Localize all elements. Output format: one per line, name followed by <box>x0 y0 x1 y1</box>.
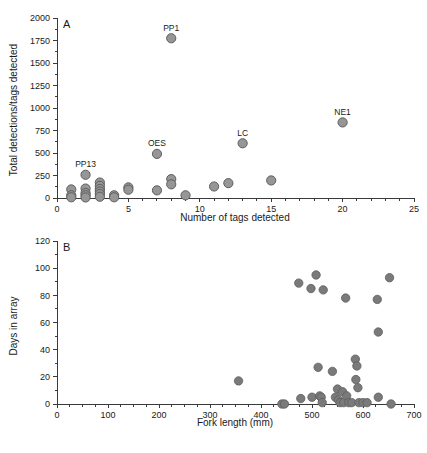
y-tick-label: 1750 <box>30 36 50 46</box>
data-point <box>338 118 347 127</box>
data-point <box>238 139 247 148</box>
data-point <box>124 185 133 194</box>
point-annotation: PP1 <box>163 23 179 33</box>
panel-b-x-axis-title: Fork length (mm) <box>197 417 273 428</box>
data-point <box>353 362 361 370</box>
y-tick-label: 250 <box>35 171 50 181</box>
data-point <box>385 273 393 281</box>
y-tick-label: 2000 <box>30 13 50 23</box>
x-tick-label: 20 <box>338 204 348 214</box>
data-point <box>167 180 176 189</box>
data-point <box>181 191 190 200</box>
x-tick-label: 600 <box>355 410 370 420</box>
y-tick-label: 20 <box>40 372 50 382</box>
y-tick-label: 1000 <box>30 103 50 113</box>
y-tick-label: 0 <box>45 399 50 409</box>
panel-a-x-axis-title: Number of tags detected <box>180 212 290 223</box>
panel-a-data-points <box>67 34 348 202</box>
data-point <box>267 176 276 185</box>
data-point <box>373 295 381 303</box>
data-point <box>374 328 382 336</box>
panel-b-scatter: 0204060801001200100200300400500600700 B … <box>0 226 427 453</box>
point-annotation: PP13 <box>75 159 96 169</box>
x-tick-label: 200 <box>151 410 166 420</box>
data-point <box>224 179 233 188</box>
data-point <box>374 393 382 401</box>
panel-b-axes: 0204060801001200100200300400500600700 <box>35 236 422 420</box>
y-tick-label: 750 <box>35 126 50 136</box>
y-tick-label: 500 <box>35 148 50 158</box>
data-point <box>341 294 349 302</box>
y-tick-label: 80 <box>40 291 50 301</box>
data-point <box>319 286 327 294</box>
y-tick-label: 40 <box>40 345 50 355</box>
panel-a-svg: 0250500750100012501500175020000510152025… <box>0 0 427 226</box>
data-point <box>280 400 288 408</box>
panel-b-data-points <box>234 271 395 408</box>
data-point <box>81 193 90 202</box>
x-tick-label: 0 <box>54 410 59 420</box>
x-tick-label: 700 <box>406 410 421 420</box>
panel-a-point-labels: PP1PP13OESLCNE1 <box>75 23 351 170</box>
data-point <box>234 377 242 385</box>
data-point <box>387 400 395 408</box>
x-tick-label: 0 <box>54 204 59 214</box>
data-point <box>363 398 371 406</box>
data-point <box>81 170 90 179</box>
data-point <box>95 192 104 201</box>
data-point <box>297 394 305 402</box>
data-point <box>328 367 336 375</box>
data-point <box>209 182 218 191</box>
data-point <box>307 284 315 292</box>
panel-a-scatter: 0250500750100012501500175020000510152025… <box>0 0 427 226</box>
x-tick-label: 500 <box>304 410 319 420</box>
panel-b-svg: 0204060801001200100200300400500600700 B … <box>0 226 427 453</box>
data-point <box>152 186 161 195</box>
data-point <box>354 384 362 392</box>
x-tick-label: 5 <box>126 204 131 214</box>
y-tick-label: 0 <box>45 193 50 203</box>
x-tick-label: 100 <box>100 410 115 420</box>
data-point <box>314 363 322 371</box>
data-point <box>295 279 303 287</box>
point-annotation: NE1 <box>334 107 351 117</box>
y-tick-label: 120 <box>35 236 50 246</box>
data-point <box>67 193 76 202</box>
panel-b-letter: B <box>63 241 70 253</box>
data-point <box>318 398 326 406</box>
y-tick-label: 1250 <box>30 81 50 91</box>
y-tick-label: 1500 <box>30 58 50 68</box>
x-tick-label: 25 <box>409 204 419 214</box>
panel-b-y-axis-title: Days in array <box>8 297 19 356</box>
point-annotation: LC <box>237 128 248 138</box>
data-point <box>312 271 320 279</box>
y-tick-label: 60 <box>40 318 50 328</box>
panel-a-letter: A <box>63 18 71 30</box>
data-point <box>152 149 161 158</box>
data-point <box>167 34 176 43</box>
panel-a-y-axis-title: Total detections/tags detected <box>8 44 19 176</box>
y-tick-label: 100 <box>35 263 50 273</box>
data-point <box>308 393 316 401</box>
data-point <box>352 375 360 383</box>
point-annotation: OES <box>148 138 166 148</box>
data-point <box>110 193 119 202</box>
figure-container: 0250500750100012501500175020000510152025… <box>0 0 427 453</box>
